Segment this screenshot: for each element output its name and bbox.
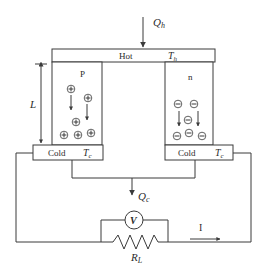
circuit-wire-left: [16, 153, 101, 242]
electron-carrier-icon: [198, 132, 206, 140]
hole-carrier-icon: [72, 118, 80, 126]
n-leg-label: n: [188, 72, 193, 82]
electron-carrier-icon: [190, 100, 198, 108]
thermoelectric-diagram: Qh Hot Th P n L Cold Tc: [0, 0, 266, 276]
hole-carrier-icon: [67, 85, 75, 93]
current-label: I: [199, 222, 202, 233]
hot-plate-label: Hot: [119, 51, 133, 61]
p-leg-label: P: [80, 69, 85, 79]
voltmeter: V: [125, 211, 143, 229]
hole-carrier-icon: [84, 94, 92, 102]
heat-sink-connector: [72, 160, 195, 178]
electron-carrier-icon: [174, 100, 182, 108]
load-resistor: [101, 235, 168, 249]
heat-input-label: Qh: [153, 16, 165, 30]
circuit-wire-right: [168, 153, 251, 242]
hot-plate: [52, 49, 215, 62]
hole-carrier-icon: [60, 131, 68, 139]
electron-carrier-icon: [173, 132, 181, 140]
electron-carrier-icon: [184, 116, 192, 124]
hole-carrier-icon: [74, 131, 82, 139]
length-dimension: [35, 64, 47, 143]
cold-plate-right-label: Cold: [178, 148, 196, 158]
cold-plate-left-label: Cold: [48, 148, 66, 158]
length-label: L: [29, 98, 36, 110]
hole-carrier-icon: [87, 129, 95, 137]
cold-plate-left: [33, 145, 103, 160]
load-resistor-label: RL: [130, 251, 143, 265]
heat-output-label: Qc: [138, 190, 150, 204]
electron-carrier-icon: [185, 129, 193, 137]
